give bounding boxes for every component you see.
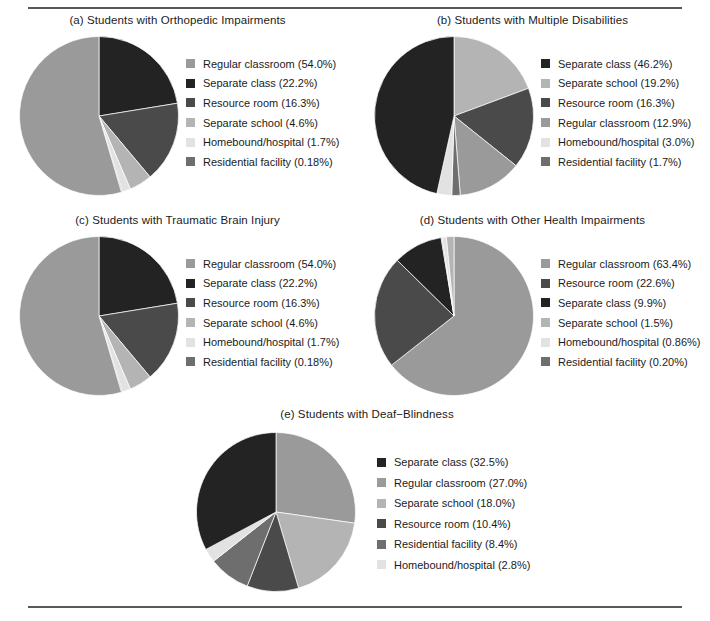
legend-swatch-icon — [377, 478, 386, 487]
legend-item: Regular classroom (63.4%) — [541, 254, 709, 274]
legend-item-label: Resource room (16.3%) — [558, 97, 675, 109]
legend-item-label: Residential facility (8.4%) — [394, 538, 518, 550]
panel-d-title: (d) Students with Other Health Impairmen… — [355, 214, 710, 226]
panel-c-title: (c) Students with Traumatic Brain Injury — [0, 214, 355, 226]
legend-swatch-icon — [377, 519, 386, 528]
legend-item-label: Homebound/hospital (3.0%) — [558, 136, 694, 148]
pie-chart-c — [18, 235, 180, 397]
legend-swatch-icon — [377, 499, 386, 508]
legend-item: Residential facility (1.7%) — [541, 152, 709, 172]
legend-item: Separate class (32.5%) — [377, 452, 557, 473]
panel-c-pie — [18, 235, 180, 397]
legend-item: Regular classroom (54.0%) — [186, 254, 354, 274]
panel-a-legend: Regular classroom (54.0%)Separate class … — [186, 54, 354, 172]
legend-item-label: Resource room (22.6%) — [558, 277, 675, 289]
legend-swatch-icon — [541, 79, 550, 88]
legend-swatch-icon — [541, 157, 550, 166]
legend-swatch-icon — [186, 157, 195, 166]
pie-chart-d — [373, 235, 535, 397]
legend-item-label: Regular classroom (12.9%) — [558, 117, 691, 129]
figure-bottom-rule — [28, 606, 682, 608]
legend-item-label: Resource room (10.4%) — [394, 518, 511, 530]
legend-item-label: Regular classroom (54.0%) — [203, 58, 336, 70]
legend-swatch-icon — [541, 138, 550, 147]
legend-item-label: Separate school (19.2%) — [558, 77, 679, 89]
chart-panel-d: (d) Students with Other Health Impairmen… — [355, 214, 710, 419]
legend-item-label: Separate class (32.5%) — [394, 456, 508, 468]
legend-item-label: Separate school (4.6%) — [203, 317, 318, 329]
legend-item-label: Separate class (22.2%) — [203, 77, 317, 89]
legend-item: Separate class (46.2%) — [541, 54, 709, 74]
legend-swatch-icon — [541, 298, 550, 307]
legend-item: Homebound/hospital (1.7%) — [186, 332, 354, 352]
chart-panel-a: (a) Students with Orthopedic Impairments… — [0, 14, 355, 219]
legend-item: Resource room (22.6%) — [541, 274, 709, 294]
pie-chart-e — [195, 431, 357, 593]
pie-slice — [276, 433, 356, 524]
legend-item: Homebound/hospital (1.7%) — [186, 132, 354, 152]
panel-b-legend: Separate class (46.2%)Separate school (1… — [541, 54, 709, 172]
legend-swatch-icon — [541, 357, 550, 366]
legend-item: Separate class (22.2%) — [186, 74, 354, 94]
legend-item: Homebound/hospital (2.8%) — [377, 555, 557, 576]
legend-item: Homebound/hospital (3.0%) — [541, 132, 709, 152]
legend-item: Resource room (16.3%) — [541, 93, 709, 113]
legend-swatch-icon — [541, 318, 550, 327]
figure-top-rule — [28, 7, 682, 9]
legend-item: Residential facility (8.4%) — [377, 534, 557, 555]
legend-swatch-icon — [377, 540, 386, 549]
chart-panel-c: (c) Students with Traumatic Brain Injury… — [0, 214, 355, 419]
legend-item-label: Resource room (16.3%) — [203, 97, 320, 109]
legend-item: Regular classroom (54.0%) — [186, 54, 354, 74]
legend-item-label: Residential facility (0.20%) — [558, 356, 688, 368]
legend-item-label: Homebound/hospital (0.86%) — [558, 336, 700, 348]
legend-item-label: Homebound/hospital (1.7%) — [203, 336, 339, 348]
pie-slice — [99, 37, 177, 117]
legend-item: Homebound/hospital (0.86%) — [541, 332, 709, 352]
legend-item: Resource room (16.3%) — [186, 93, 354, 113]
legend-swatch-icon — [377, 560, 386, 569]
legend-swatch-icon — [186, 118, 195, 127]
legend-item-label: Regular classroom (54.0%) — [203, 258, 336, 270]
legend-item: Residential facility (0.18%) — [186, 152, 354, 172]
legend-swatch-icon — [186, 338, 195, 347]
legend-item-label: Residential facility (1.7%) — [558, 156, 682, 168]
legend-item-label: Regular classroom (63.4%) — [558, 258, 691, 270]
legend-item-label: Separate school (18.0%) — [394, 497, 515, 509]
pie-slice — [99, 237, 177, 317]
legend-swatch-icon — [186, 79, 195, 88]
legend-swatch-icon — [377, 458, 386, 467]
legend-item-label: Separate school (4.6%) — [203, 117, 318, 129]
legend-item-label: Separate class (9.9%) — [558, 297, 666, 309]
legend-item: Separate school (18.0%) — [377, 493, 557, 514]
legend-item-label: Homebound/hospital (1.7%) — [203, 136, 339, 148]
legend-item-label: Resource room (16.3%) — [203, 297, 320, 309]
legend-swatch-icon — [541, 118, 550, 127]
panel-a-pie — [18, 35, 180, 197]
legend-swatch-icon — [541, 338, 550, 347]
legend-swatch-icon — [541, 259, 550, 268]
panel-d-pie — [373, 235, 535, 397]
panel-e-pie — [195, 431, 357, 593]
legend-swatch-icon — [186, 59, 195, 68]
legend-item: Residential facility (0.20%) — [541, 352, 709, 372]
panel-e-title: (e) Students with Deaf−Blindness — [177, 408, 557, 420]
legend-swatch-icon — [186, 279, 195, 288]
legend-swatch-icon — [541, 59, 550, 68]
legend-item-label: Regular classroom (27.0%) — [394, 477, 527, 489]
chart-panel-e: (e) Students with Deaf−Blindness Separat… — [177, 408, 557, 608]
legend-swatch-icon — [186, 259, 195, 268]
legend-item-label: Residential facility (0.18%) — [203, 156, 333, 168]
legend-swatch-icon — [186, 298, 195, 307]
legend-item: Separate school (1.5%) — [541, 313, 709, 333]
legend-item-label: Homebound/hospital (2.8%) — [394, 559, 530, 571]
legend-item: Separate school (4.6%) — [186, 313, 354, 333]
legend-item: Separate school (19.2%) — [541, 74, 709, 94]
legend-item: Resource room (10.4%) — [377, 514, 557, 535]
legend-swatch-icon — [541, 279, 550, 288]
legend-item-label: Separate class (22.2%) — [203, 277, 317, 289]
pie-slice — [375, 37, 454, 194]
panel-c-legend: Regular classroom (54.0%)Separate class … — [186, 254, 354, 372]
legend-item-label: Separate class (46.2%) — [558, 58, 672, 70]
legend-swatch-icon — [186, 138, 195, 147]
